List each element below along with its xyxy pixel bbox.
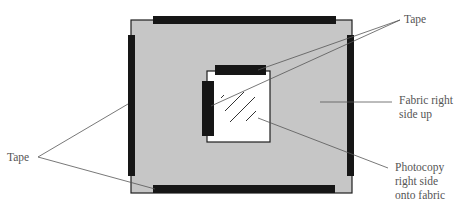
tape-bottom xyxy=(153,185,335,193)
label-fabric-right-side-up: Fabric right side up xyxy=(399,93,453,121)
label-tape-top: Tape xyxy=(404,12,426,26)
photocopy-sheet xyxy=(207,71,270,142)
tape-top xyxy=(153,16,336,24)
label-tape-left: Tape xyxy=(7,150,29,164)
label-photocopy: Photocopy right side onto fabric xyxy=(395,160,445,202)
photocopy-tape-left xyxy=(202,81,214,136)
leader-tape-left-1 xyxy=(38,104,128,157)
tape-left xyxy=(128,35,135,176)
